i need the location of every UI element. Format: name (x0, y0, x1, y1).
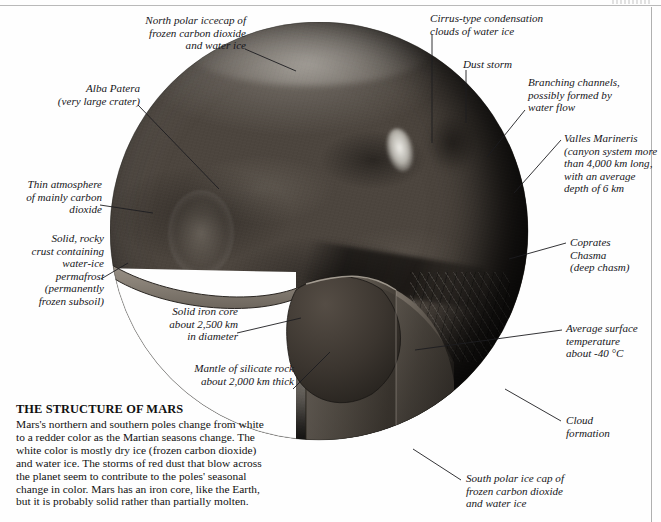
leader-south-polar-ice-cap (413, 449, 461, 480)
label-cirrus-clouds: Cirrus-type condensation clouds of water… (430, 12, 590, 37)
leader-solid-iron-core (237, 318, 301, 333)
leader-mantle (293, 352, 330, 389)
label-branching-channels: Branching channels, possibly formed by w… (528, 76, 654, 114)
leader-valles-marineris (514, 140, 561, 193)
figure-page: North polar iccecap of frozen carbon dio… (0, 0, 661, 522)
label-south-polar-ice-cap: South polar ice cap of frozen carbon dio… (466, 472, 636, 510)
leader-avg-surface-temp (415, 330, 562, 350)
leader-branching-channels (487, 110, 525, 157)
label-solid-rocky-crust: Solid, rocky crust containing water-ice … (4, 232, 104, 308)
leader-north-polar-icecap (245, 49, 296, 71)
label-valles-marineris: Valles Marineris (canyon system more tha… (564, 132, 661, 195)
label-mantle: Mantle of silicate rock about 2,000 km t… (148, 362, 294, 387)
label-coprates-chasma: Coprates Chasma (deep chasm) (570, 236, 660, 274)
label-north-polar-icecap: North polar iccecap of frozen carbon dio… (80, 14, 246, 52)
label-cloud-formation: Cloud formation (566, 414, 648, 439)
label-alba-patera: Alba Patera (very large crater) (38, 82, 140, 107)
leader-cloud-formation (505, 389, 561, 421)
leader-coprates-chasma (509, 243, 566, 259)
caption-block: THE STRUCTURE OF MARS Mars's northern an… (16, 402, 264, 508)
label-solid-iron-core: Solid iron core about 2,500 km in diamet… (140, 305, 238, 343)
leader-solid-rocky-crust (101, 263, 128, 279)
caption-title: THE STRUCTURE OF MARS (16, 402, 264, 417)
label-dust-storm: Dust storm (463, 58, 553, 71)
leader-thin-atmosphere (100, 205, 153, 213)
leader-alba-patera (138, 105, 219, 189)
caption-body: Mars's northern and southern poles chang… (16, 418, 264, 508)
label-thin-atmosphere: Thin atmosphere of mainly carbon dioxide (6, 178, 102, 216)
label-avg-surface-temp: Average surface temperature about -40 °C (566, 322, 658, 360)
